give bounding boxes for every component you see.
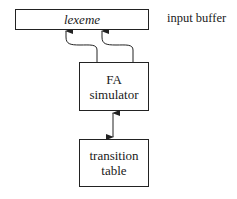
- transition-table-line1: transition: [89, 148, 138, 163]
- input-buffer-label: input buffer: [167, 11, 226, 26]
- diagram-canvas: lexeme input buffer FA simulator transit…: [0, 0, 237, 199]
- fa-simulator-line2: simulator: [89, 87, 138, 102]
- lexeme-text: lexeme: [64, 12, 100, 27]
- fa-simulator-line1: FA: [106, 72, 122, 87]
- forward-pointer-arrow: [102, 31, 133, 62]
- transition-table-box: transition table: [79, 139, 149, 187]
- transition-table-line2: table: [101, 163, 126, 178]
- input-buffer-box: lexeme: [15, 9, 149, 30]
- fa-simulator-box: FA simulator: [79, 62, 149, 111]
- lexeme-begin-pointer-arrow: [66, 31, 97, 62]
